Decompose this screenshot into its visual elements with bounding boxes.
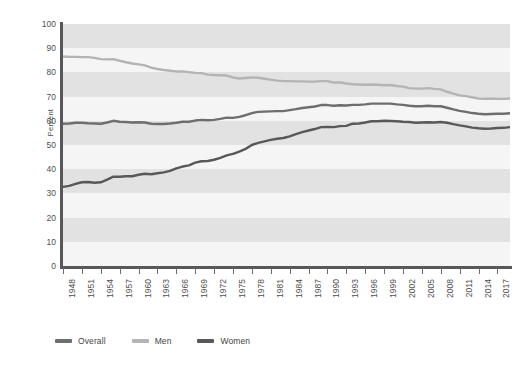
y-tick-label: 0 xyxy=(26,261,56,271)
x-tick-mark xyxy=(214,268,215,274)
x-tick-mark xyxy=(157,268,158,274)
x-tick-label: 2008 xyxy=(445,276,455,295)
y-tick-label: 60 xyxy=(26,116,56,126)
x-tick-label: 2002 xyxy=(407,276,417,295)
x-tick-mark xyxy=(384,268,385,274)
x-tick-mark xyxy=(460,268,461,274)
x-tick-label: 1969 xyxy=(199,276,209,295)
legend-item-men[interactable]: Men xyxy=(132,336,172,346)
x-tick-label: 1984 xyxy=(294,276,304,295)
x-tick-mark xyxy=(365,268,366,274)
y-tick-label: 20 xyxy=(26,213,56,223)
x-tick-label: 1954 xyxy=(105,276,115,295)
x-tick-mark xyxy=(422,268,423,274)
x-tick-mark xyxy=(497,268,498,274)
x-tick-mark xyxy=(252,268,253,274)
x-tick-label: 2017 xyxy=(501,276,511,295)
x-tick-mark xyxy=(309,268,310,274)
legend-label: Men xyxy=(155,336,172,346)
legend-label: Women xyxy=(220,336,250,346)
legend-swatch-icon xyxy=(55,339,72,343)
x-tick-mark xyxy=(346,268,347,274)
x-tick-label: 1978 xyxy=(256,276,266,295)
x-tick-label: 2011 xyxy=(464,276,474,294)
x-tick-mark xyxy=(63,268,64,274)
x-tick-label: 2005 xyxy=(426,276,436,295)
x-tick-mark xyxy=(271,268,272,274)
x-tick-mark xyxy=(195,268,196,274)
legend-swatch-icon xyxy=(132,339,149,343)
x-tick-label: 1963 xyxy=(161,276,171,295)
x-tick-label: 1948 xyxy=(67,276,77,295)
x-tick-label: 1951 xyxy=(86,276,96,295)
x-tick-mark xyxy=(233,268,234,274)
plot-area xyxy=(63,24,510,266)
y-tick-label: 40 xyxy=(26,164,56,174)
chart-legend: OverallMenWomen xyxy=(55,336,250,346)
x-tick-mark xyxy=(479,268,480,274)
y-tick-label: 70 xyxy=(26,92,56,102)
x-axis-tick-labels: 1948195119541957196019631966196919721975… xyxy=(63,276,510,321)
x-tick-mark xyxy=(327,268,328,274)
y-tick-label: 50 xyxy=(26,140,56,150)
y-tick-label: 90 xyxy=(26,43,56,53)
x-tick-label: 1993 xyxy=(350,276,360,295)
x-tick-label: 1957 xyxy=(124,276,134,295)
x-tick-mark xyxy=(176,268,177,274)
legend-label: Overall xyxy=(78,336,106,346)
x-tick-label: 2014 xyxy=(483,276,493,295)
series-line-overall xyxy=(63,104,510,124)
line-chart: Percent 1009080706050403020100 194819511… xyxy=(0,0,529,365)
x-tick-label: 1975 xyxy=(237,276,247,295)
x-tick-mark xyxy=(290,268,291,274)
y-axis-tick-labels: 1009080706050403020100 xyxy=(26,18,56,268)
x-tick-label: 1966 xyxy=(180,276,190,295)
x-tick-label: 1960 xyxy=(143,276,153,295)
x-tick-mark xyxy=(139,268,140,274)
legend-item-women[interactable]: Women xyxy=(197,336,250,346)
x-tick-label: 1972 xyxy=(218,276,228,295)
y-tick-label: 80 xyxy=(26,67,56,77)
x-tick-label: 1999 xyxy=(388,276,398,295)
x-tick-mark xyxy=(403,268,404,274)
x-tick-label: 1981 xyxy=(275,276,285,295)
series-line-women xyxy=(63,121,510,187)
x-tick-label: 1996 xyxy=(369,276,379,295)
x-tick-mark xyxy=(120,268,121,274)
x-tick-mark xyxy=(82,268,83,274)
x-tick-label: 1990 xyxy=(331,276,341,295)
series-line-men xyxy=(63,56,510,98)
x-axis-ticks xyxy=(63,268,510,275)
x-tick-label: 1987 xyxy=(313,276,323,295)
x-tick-mark xyxy=(441,268,442,274)
legend-item-overall[interactable]: Overall xyxy=(55,336,106,346)
legend-swatch-icon xyxy=(197,339,214,343)
y-axis-line xyxy=(60,22,63,268)
y-tick-label: 100 xyxy=(26,19,56,29)
y-tick-label: 10 xyxy=(26,237,56,247)
y-tick-label: 30 xyxy=(26,188,56,198)
series-lines xyxy=(63,24,510,266)
x-tick-mark xyxy=(101,268,102,274)
